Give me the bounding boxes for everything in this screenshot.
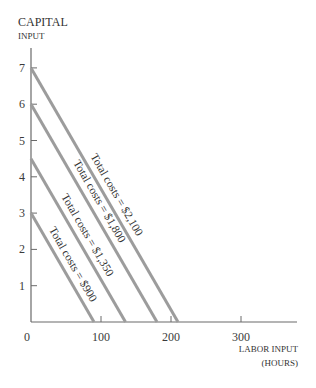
origin-label: 0: [24, 330, 30, 344]
isocost-lines: Total costs = $900Total costs = $1,350To…: [31, 68, 178, 322]
y-axis-title-line2: INPUT: [18, 31, 45, 41]
y-ticks: 1234567: [19, 61, 37, 293]
y-axis-title-line1: CAPITAL: [18, 15, 68, 29]
x-tick-label: 100: [92, 330, 110, 344]
y-tick-label: 1: [19, 279, 25, 293]
y-axis-title: CAPITAL: [18, 15, 68, 29]
y-tick-label: 3: [19, 206, 25, 220]
x-axis-title: LABOR INPUT: [239, 344, 299, 354]
isocost-chart: CAPITAL INPUT LABOR INPUT (HOURS) 123456…: [0, 0, 316, 388]
y-tick-label: 7: [19, 61, 25, 75]
y-tick-label: 2: [19, 242, 25, 256]
x-axis-unit: (HOURS): [261, 358, 298, 368]
x-ticks: 100200300: [92, 316, 250, 344]
y-tick-label: 6: [19, 97, 25, 111]
y-tick-label: 4: [19, 170, 25, 184]
y-tick-label: 5: [19, 134, 25, 148]
x-tick-label: 300: [232, 330, 250, 344]
x-tick-label: 200: [162, 330, 180, 344]
